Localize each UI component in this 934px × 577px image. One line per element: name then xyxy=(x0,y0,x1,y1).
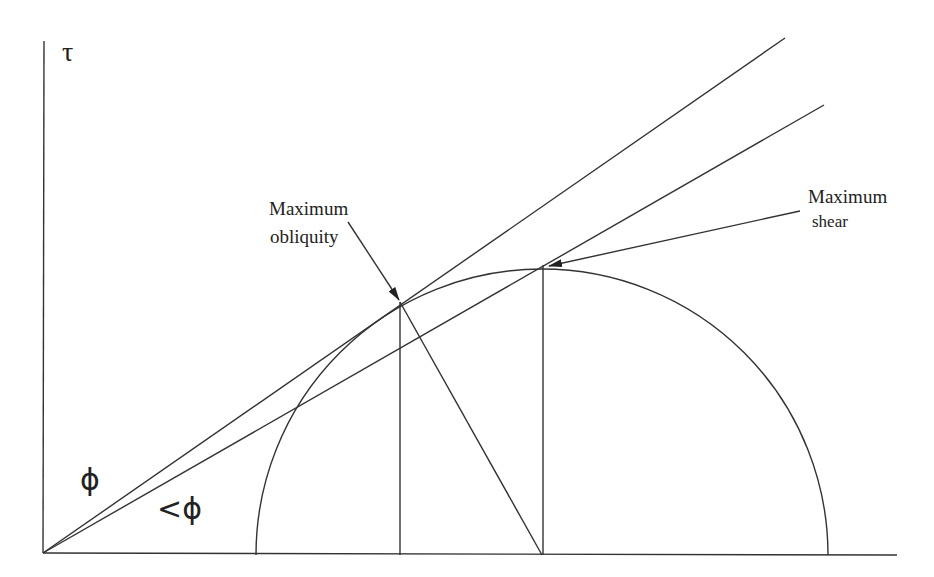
max-shear-arrow xyxy=(549,211,800,266)
max-obliquity-arrow xyxy=(348,222,399,300)
mohr-circle-arc xyxy=(256,269,828,555)
phi-angle-label: ϕ xyxy=(80,465,100,495)
max-obliquity-label-line1: Maximum xyxy=(269,199,348,218)
max-shear-label-line2: shear xyxy=(812,213,848,230)
obliquity-radius-line xyxy=(400,302,542,555)
max-shear-label-line1: Maximum xyxy=(808,187,887,206)
max-obliquity-label-line2: obliquity xyxy=(270,227,339,246)
y-axis-label-tau: τ xyxy=(62,38,73,66)
envelope-less-phi-line xyxy=(43,105,824,553)
mohr-circle-diagram: τ ϕ <ϕ Maximum obliquity Maximum shear xyxy=(0,0,934,577)
less-than-phi-angle-label: <ϕ xyxy=(157,494,202,524)
x-axis xyxy=(43,553,897,555)
envelope-phi-line xyxy=(43,38,785,553)
y-axis xyxy=(43,41,44,553)
diagram-graphics xyxy=(0,0,934,577)
